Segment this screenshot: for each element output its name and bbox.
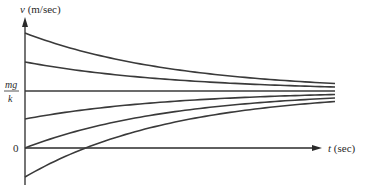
curve-solution-below-3 xyxy=(25,102,335,178)
t-axis-label: t (sec) xyxy=(328,142,356,155)
solution-curves xyxy=(25,33,335,177)
curve-solution-below-1 xyxy=(25,95,335,120)
slope-field-diagram: v (m/sec) t (sec) mg k 0 xyxy=(0,0,383,188)
t-axis-arrow-icon xyxy=(312,145,322,151)
curve-solution-above-1 xyxy=(25,62,335,87)
curve-solution-above-2 xyxy=(25,33,335,84)
v-axis-arrow-icon xyxy=(22,17,28,27)
equilibrium-label-numerator: mg xyxy=(5,79,17,90)
v-axis-label: v (m/sec) xyxy=(20,3,61,16)
zero-label: 0 xyxy=(13,142,19,154)
equilibrium-label-denominator: k xyxy=(8,93,13,104)
